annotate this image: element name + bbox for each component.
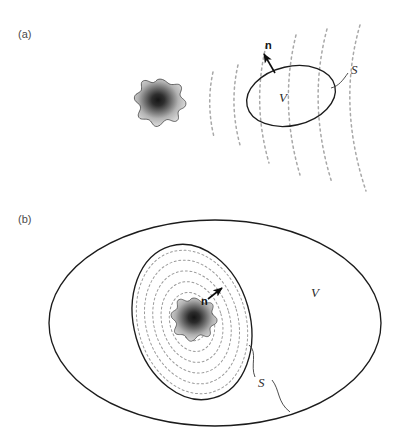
panel-b-tag: (b) — [18, 213, 31, 225]
figure-canvas: (a) V n — [0, 0, 417, 434]
normal-arrow-a — [264, 54, 275, 73]
wavefront-arcs-a — [210, 25, 366, 191]
panel-b: (b) V n — [18, 213, 381, 426]
wave-arc — [350, 25, 366, 191]
wave-arc — [260, 46, 269, 163]
surface-label-a: S — [351, 62, 358, 77]
surface-leader-b-lower — [272, 380, 290, 412]
volume-label-a: V — [279, 90, 289, 105]
panel-a-tag: (a) — [18, 28, 31, 40]
normal-label-a: n — [265, 39, 272, 51]
surface-label-b: S — [258, 375, 265, 390]
normal-label-b: n — [201, 295, 208, 307]
wave-arc — [210, 72, 214, 137]
figure-container: (a) V n — [0, 0, 417, 434]
normal-arrow-shaft — [264, 54, 275, 73]
source-blob-b — [171, 298, 217, 341]
surface-leader-b-upper — [249, 345, 255, 377]
surface-ellipse-a — [241, 57, 342, 135]
volume-label-b: V — [311, 285, 321, 300]
wave-arc — [288, 35, 300, 175]
wave-arc — [234, 65, 240, 145]
surface-boundary — [241, 57, 342, 135]
source-blob-a — [134, 79, 186, 126]
panel-a: (a) V n — [18, 25, 366, 191]
